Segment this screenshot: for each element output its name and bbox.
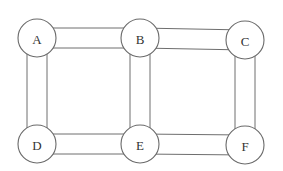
graph-diagram: ABCDEF [0, 0, 283, 171]
node-label: E [136, 138, 144, 153]
node-f: F [226, 126, 264, 164]
node-c: C [226, 21, 264, 59]
node-a: A [18, 19, 56, 57]
node-label: C [241, 34, 250, 49]
node-label: D [32, 138, 41, 153]
node-d: D [18, 125, 56, 163]
node-label: F [241, 139, 248, 154]
node-label: A [32, 32, 42, 47]
node-label: B [136, 32, 145, 47]
node-b: B [121, 19, 159, 57]
node-e: E [121, 125, 159, 163]
